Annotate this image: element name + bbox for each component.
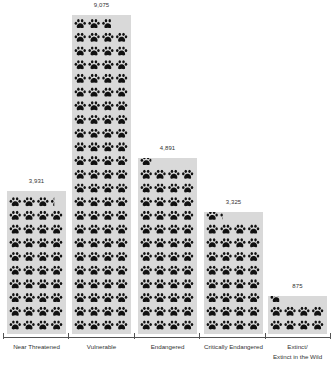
paw-icon xyxy=(207,279,218,288)
paw-icon xyxy=(10,320,21,329)
paw-icon xyxy=(182,170,193,179)
paw-icon xyxy=(298,320,309,329)
paw-icon xyxy=(88,88,99,97)
category-label: Near Threatened xyxy=(4,342,70,352)
paw-icon xyxy=(75,156,86,165)
paw-icon xyxy=(182,238,193,247)
paw-icon xyxy=(51,197,62,206)
paw-icon xyxy=(141,225,152,234)
pictograph-chart: 3,9319,0754,8913,325875 Near ThreatenedV… xyxy=(0,0,335,372)
paw-icon xyxy=(23,197,34,206)
paw-icon xyxy=(102,279,113,288)
paw-icon xyxy=(116,115,127,124)
paw-icon xyxy=(312,307,323,316)
bar-vulnerable xyxy=(72,15,131,334)
bar-endangered xyxy=(138,158,197,334)
paw-icon xyxy=(23,307,34,316)
paw-icon-grid xyxy=(72,15,131,334)
paw-icon xyxy=(116,74,127,83)
paw-icon xyxy=(75,293,86,302)
paw-icon xyxy=(88,115,99,124)
paw-icon xyxy=(102,266,113,275)
paw-icon xyxy=(102,307,113,316)
paw-icon xyxy=(182,279,193,288)
paw-icon xyxy=(23,225,34,234)
paw-icon xyxy=(75,183,86,192)
paw-icon xyxy=(88,307,99,316)
value-label: 9,075 xyxy=(72,2,132,8)
paw-icon xyxy=(248,252,259,261)
paw-icon xyxy=(207,238,218,247)
paw-icon xyxy=(75,238,86,247)
paw-icon xyxy=(37,225,48,234)
paw-icon xyxy=(154,307,165,316)
paw-icon xyxy=(168,252,179,261)
paw-icon xyxy=(116,129,127,138)
paw-icon xyxy=(207,212,218,220)
paw-icon xyxy=(75,211,86,220)
paw-icon xyxy=(75,60,86,69)
paw-icon xyxy=(88,293,99,302)
paw-icon xyxy=(37,320,48,329)
paw-icon xyxy=(10,279,21,288)
paw-icon xyxy=(51,211,62,220)
value-label: 3,325 xyxy=(204,199,264,205)
paw-icon xyxy=(154,170,165,179)
paw-icon xyxy=(207,266,218,275)
paw-icon xyxy=(141,158,152,165)
paw-icon xyxy=(182,252,193,261)
paw-icon xyxy=(248,320,259,329)
paw-icon xyxy=(207,225,218,234)
paw-icon xyxy=(207,320,218,329)
category-label: Extinct/Extinct in the Wild xyxy=(265,342,331,362)
value-label: 4,891 xyxy=(138,145,198,151)
paw-icon xyxy=(154,183,165,192)
paw-icon xyxy=(102,33,113,42)
paw-icon xyxy=(88,74,99,83)
paw-icon xyxy=(102,170,113,179)
paw-icon xyxy=(182,197,193,206)
paw-icon xyxy=(154,252,165,261)
paw-icon xyxy=(182,307,193,316)
paw-icon xyxy=(154,279,165,288)
paw-icon xyxy=(168,211,179,220)
paw-icon xyxy=(154,238,165,247)
paw-icon xyxy=(51,320,62,329)
paw-icon xyxy=(37,279,48,288)
paw-icon xyxy=(23,279,34,288)
paw-icon xyxy=(182,293,193,302)
paw-icon xyxy=(116,252,127,261)
paw-icon xyxy=(141,170,152,179)
paw-icon xyxy=(75,115,86,124)
paw-icon xyxy=(141,252,152,261)
paw-icon xyxy=(141,266,152,275)
paw-icon xyxy=(37,293,48,302)
x-axis-tick xyxy=(199,333,200,339)
paw-icon xyxy=(37,197,48,206)
paw-icon xyxy=(88,197,99,206)
paw-icon xyxy=(234,266,245,275)
paw-icon xyxy=(116,266,127,275)
paw-icon xyxy=(248,238,259,247)
paw-icon xyxy=(220,307,231,316)
paw-icon xyxy=(75,197,86,206)
bar-extinct-extinct-in-the-wild xyxy=(268,296,327,334)
paw-icon xyxy=(248,307,259,316)
paw-icon xyxy=(168,307,179,316)
paw-icon xyxy=(88,129,99,138)
paw-icon xyxy=(168,293,179,302)
paw-icon xyxy=(10,252,21,261)
paw-icon xyxy=(116,279,127,288)
x-axis-tick xyxy=(134,333,135,339)
paw-icon xyxy=(88,238,99,247)
category-label: Endangered xyxy=(135,342,201,352)
paw-icon xyxy=(88,225,99,234)
paw-icon xyxy=(102,183,113,192)
paw-icon xyxy=(248,293,259,302)
paw-icon xyxy=(88,183,99,192)
paw-icon xyxy=(116,307,127,316)
paw-icon xyxy=(23,320,34,329)
paw-icon xyxy=(102,19,113,28)
paw-icon xyxy=(23,293,34,302)
paw-icon xyxy=(88,156,99,165)
